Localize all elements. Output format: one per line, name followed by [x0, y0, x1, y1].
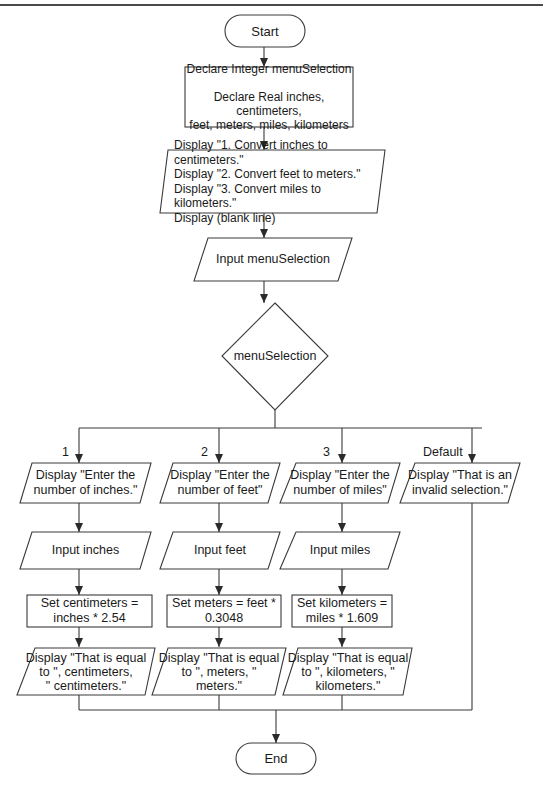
case2-output-text: Display "That is equal to ", meters, " m…	[155, 648, 283, 695]
case1-process-text: Set centimeters = inches * 2.54	[27, 595, 152, 627]
case3-label: 3	[323, 445, 330, 459]
default-prompt-text: Display "That is an invalid selection."	[400, 463, 520, 503]
declare-text: Declare Integer menuSelection Declare Re…	[185, 67, 353, 127]
case3-prompt-text: Display "Enter the number of miles"	[280, 463, 400, 503]
case1-input-text: Input inches	[20, 532, 151, 569]
case1-output-text: Display "That is equal to ", centimeters…	[20, 648, 152, 695]
start-label: Start	[225, 15, 305, 47]
case2-input-text: Input feet	[160, 532, 280, 569]
case1-label: 1	[62, 445, 69, 459]
menu-display-text: Display "1. Convert inches to centimeter…	[168, 150, 378, 213]
end-label: End	[236, 743, 316, 774]
case3-input-text: Input miles	[280, 532, 400, 569]
decision-text: menuSelection	[222, 340, 328, 372]
case2-process-text: Set meters = feet * 0.3048	[167, 595, 281, 627]
menu-input-text: Input menuSelection	[200, 238, 346, 281]
case3-output-text: Display "That is equal to ", kilometers,…	[286, 648, 410, 695]
default-label: Default	[423, 445, 463, 459]
case2-prompt-text: Display "Enter the number of feet"	[160, 463, 280, 503]
case1-prompt-text: Display "Enter the number of inches."	[20, 463, 151, 503]
case3-process-text: Set kilometers = miles * 1.609	[292, 595, 392, 627]
case2-label: 2	[201, 445, 208, 459]
